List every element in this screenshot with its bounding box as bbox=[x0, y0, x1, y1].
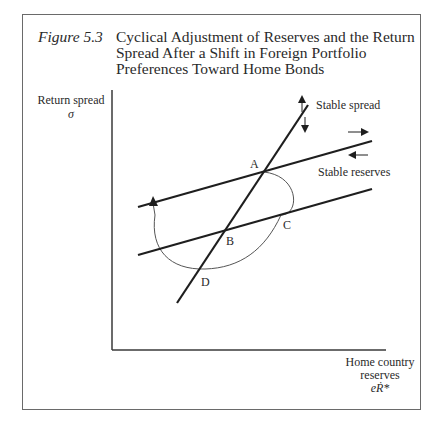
point-d-label: D bbox=[201, 275, 210, 290]
stable-reserves-label: Stable reserves bbox=[318, 165, 390, 180]
point-c-label: C bbox=[283, 218, 291, 233]
stable-spread-label: Stable spread bbox=[316, 98, 380, 113]
stable-reserves-line-shifted bbox=[138, 189, 372, 255]
point-a-label: A bbox=[250, 157, 259, 172]
diagram-canvas bbox=[0, 0, 440, 423]
stable-spread-line bbox=[177, 105, 308, 303]
adjustment-cycle-path bbox=[153, 172, 294, 269]
point-b-label: B bbox=[226, 234, 234, 249]
